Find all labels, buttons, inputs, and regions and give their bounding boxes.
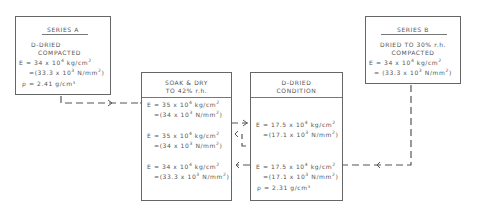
soak-dry-entry-3-n: =(33.3 x 103 N/mm2): [154, 173, 229, 180]
soak-dry-title-2: TO 42% r.h.: [142, 87, 231, 94]
soak-dry-entry-2-n: =(34 x 103 N/mm2): [154, 142, 222, 149]
series-b-underline: [381, 34, 447, 35]
soak-dry-entry-2-kg: E = 35 x 104 kg/cm2: [147, 132, 220, 139]
d-dried-density: ρ = 2.31 g/cm³: [257, 184, 311, 191]
soak-dry-box: SOAK & DRY TO 42% r.h. E = 35 x 104 kg/c…: [141, 72, 232, 201]
soak-dry-divider: [142, 97, 231, 98]
soak-dry-entry-1-n: =(34 x 103 N/mm2): [154, 111, 222, 118]
series-a-condition: D-DRIED: [31, 41, 61, 48]
soak-dry-entry-3-kg: E = 34 x 104 kg/cm2: [147, 163, 220, 170]
series-b-condition: DRIED TO 30% r.h.: [366, 41, 460, 48]
d-dried-title-1: D-DRIED: [251, 79, 342, 86]
series-a-density: ρ = 2.41 g/cm³: [22, 80, 76, 87]
d-dried-title-2: CONDITION: [251, 87, 342, 94]
series-b-e-kg: E = 34 x 104 kg/cm2: [369, 59, 442, 66]
d-dried-entry-2-n: =(17.1 x 103 N/mm2): [263, 173, 338, 180]
d-dried-entry-2-kg: E = 17.5 x 104 kg/cm2: [256, 163, 336, 170]
series-b-compacted: COMPACTED: [366, 49, 460, 56]
series-a-box: SERIES A D-DRIED COMPACTED E = 34 x 104 …: [15, 16, 111, 95]
series-a-title: SERIES A: [16, 26, 110, 33]
series-a-compacted: COMPACTED: [38, 49, 81, 56]
series-a-underline: [42, 34, 88, 35]
soak-dry-title-1: SOAK & DRY: [142, 79, 231, 86]
series-b-box: SERIES B DRIED TO 30% r.h. COMPACTED E =…: [365, 16, 461, 84]
soak-dry-entry-1-kg: E = 35 x 104 kg/cm2: [147, 101, 220, 108]
d-dried-divider: [251, 97, 342, 98]
d-dried-entry-1-n: =(17.1 x 103 N/mm2): [263, 131, 338, 138]
series-a-e-n: =(33.3 x 103 N/mm2): [29, 69, 104, 76]
series-a-e-kg: E = 34 x 104 kg/cm2: [19, 59, 92, 66]
series-b-title: SERIES B: [366, 26, 460, 33]
series-b-e-n: = (33.3 x 103 N/mm2): [374, 69, 452, 76]
d-dried-condition-box: D-DRIED CONDITION E = 17.5 x 104 kg/cm2 …: [250, 72, 343, 201]
d-dried-entry-1-kg: E = 17.5 x 104 kg/cm2: [256, 121, 336, 128]
